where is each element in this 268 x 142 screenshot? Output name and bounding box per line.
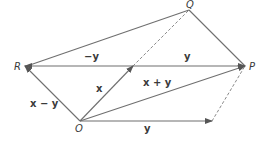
point-label-o: O [75,123,83,134]
segment-r-q [27,10,189,66]
vector-x-minus-y [25,66,80,121]
point-label-r: R [14,61,21,72]
segment-q-p [189,10,245,66]
dashed-x-tip-to-q [133,10,189,66]
dashed-y-tip-to-p [212,66,245,121]
vector-x [80,66,133,121]
label-neg-y: −y [84,51,99,62]
vector-diagram: R P Q O −y y x x + y x − y y [0,0,268,142]
label-y-bottom: y [144,123,151,134]
label-y-top: y [184,51,191,62]
label-x: x [96,83,103,94]
point-label-p: P [249,61,256,72]
label-x-plus-y: x + y [143,77,172,88]
point-label-q: Q [186,0,194,10]
label-x-minus-y: x − y [30,98,59,109]
vector-x-plus-y [80,66,245,121]
